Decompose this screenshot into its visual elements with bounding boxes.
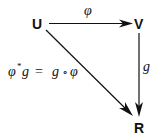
node-u: U (32, 16, 42, 32)
node-r: R (134, 120, 144, 134)
eq-compose: ∘ (62, 66, 68, 77)
arrow-u-to-r (46, 30, 133, 116)
arrow-u-to-v (49, 20, 133, 28)
edge-label-phi: φ (84, 3, 92, 18)
commutative-diagram: U V R φ g φ * g = g ∘ φ (0, 0, 156, 134)
eq-g-1: g (22, 64, 29, 79)
eq-g-2: g (52, 64, 59, 79)
node-v: V (134, 16, 144, 32)
arrow-v-to-r (135, 33, 143, 117)
eq-equals: = (35, 64, 43, 79)
eq-phi-1: φ (8, 64, 16, 79)
eq-phi-2: φ (70, 64, 78, 79)
equation-label: φ * g = g ∘ φ (8, 61, 78, 79)
edge-label-g: g (143, 59, 150, 74)
